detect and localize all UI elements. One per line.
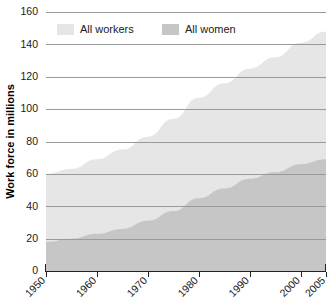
legend-item-all-women: All women: [162, 23, 236, 35]
work-force-area-chart: 020406080100120140160 195019601970198019…: [0, 0, 334, 308]
y-tick-labels: 020406080100120140160: [20, 5, 38, 276]
x-tick-label-2000: 2000: [277, 274, 302, 299]
y-tick-label-60: 60: [26, 167, 38, 179]
y-tick-label-160: 160: [20, 5, 38, 17]
x-tick-label-1990: 1990: [226, 274, 251, 299]
y-tick-label-100: 100: [20, 102, 38, 114]
legend-label: All workers: [80, 23, 134, 35]
legend-swatch: [57, 24, 74, 35]
y-tick-label-120: 120: [20, 70, 38, 82]
legend-swatch: [162, 24, 179, 35]
y-tick-label-140: 140: [20, 38, 38, 50]
legend-item-all-workers: All workers: [57, 23, 134, 35]
x-tick-label-1960: 1960: [73, 274, 98, 299]
x-tick-label-1970: 1970: [124, 274, 149, 299]
y-tick-label-40: 40: [26, 200, 38, 212]
legend-label: All women: [185, 23, 236, 35]
x-tick-label-1950: 1950: [22, 274, 47, 299]
x-tick-labels: 1950196019701980199020002005: [22, 274, 327, 299]
y-axis-title-label: Work force in millions: [4, 84, 16, 199]
y-tick-label-20: 20: [26, 232, 38, 244]
x-tick-label-2005: 2005: [302, 274, 327, 299]
x-tick-label-1980: 1980: [175, 274, 200, 299]
y-axis-title: Work force in millions: [4, 84, 16, 199]
chart-canvas: 020406080100120140160 195019601970198019…: [0, 0, 334, 308]
y-tick-label-80: 80: [26, 135, 38, 147]
